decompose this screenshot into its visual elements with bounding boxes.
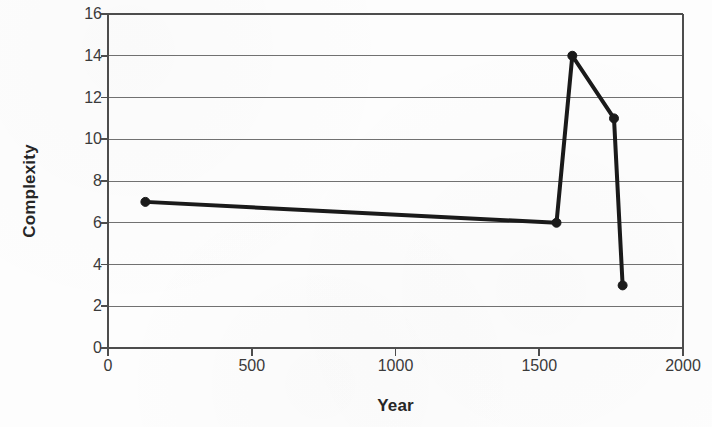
plot-canvas <box>0 0 712 427</box>
data-point-marker[interactable] <box>568 51 577 60</box>
data-point-marker[interactable] <box>552 218 561 227</box>
chart-figure: Complexity Year 0246810121416 0500100015… <box>0 0 712 427</box>
data-line <box>145 56 622 286</box>
data-point-marker[interactable] <box>141 197 150 206</box>
data-series-layer <box>141 51 627 290</box>
data-point-marker[interactable] <box>618 281 627 290</box>
gridlines <box>108 14 683 348</box>
axis-tick-marks <box>101 14 683 356</box>
data-point-marker[interactable] <box>610 114 619 123</box>
